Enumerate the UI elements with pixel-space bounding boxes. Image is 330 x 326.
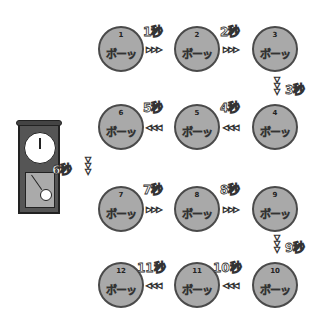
step-number: 10 — [254, 267, 296, 275]
pendulum-bob — [40, 189, 52, 201]
seconds-label: 10秒 — [213, 258, 242, 275]
sound-text: ボーッ — [100, 281, 142, 297]
sound-text: ボーッ — [254, 45, 296, 61]
sound-text: ボーッ — [100, 205, 142, 221]
step-circle-1: 1ボーッ — [98, 26, 144, 72]
step-number: 1 — [100, 31, 142, 39]
seconds-label: 3秒 — [285, 80, 305, 97]
sound-text: ボーッ — [100, 123, 142, 139]
clock-hand — [39, 138, 41, 149]
sound-text: ボーッ — [254, 123, 296, 139]
seconds-label: 11秒 — [137, 258, 166, 275]
step-number: 11 — [176, 267, 218, 275]
pendulum-rod — [31, 175, 42, 190]
direction-arrows-icon: ▷▷▷ — [223, 205, 238, 214]
seconds-label: 7秒 — [143, 180, 163, 197]
step-circle-3: 3ボーッ — [252, 26, 298, 72]
step-number: 8 — [176, 191, 218, 199]
sound-text: ボーッ — [254, 281, 296, 297]
down-arrows-icon: ▽▽▽ — [272, 77, 282, 95]
step-circle-10: 10ボーッ — [252, 262, 298, 308]
sound-text: ボーッ — [176, 45, 218, 61]
step-number: 12 — [100, 267, 142, 275]
step-circle-5: 5ボーッ — [174, 104, 220, 150]
seconds-label: 1秒 — [143, 22, 163, 39]
direction-arrows-icon: ◁◁◁ — [146, 281, 161, 290]
step-circle-9: 9ボーッ — [252, 186, 298, 232]
pendulum-window — [25, 172, 55, 208]
down-arrows-icon: ▽▽▽ — [272, 235, 282, 253]
sound-text: ボーッ — [100, 45, 142, 61]
step-number: 6 — [100, 109, 142, 117]
direction-arrows-icon: ◁◁◁ — [223, 281, 238, 290]
direction-arrows-icon: ▷▷▷ — [146, 205, 161, 214]
seconds-label: 8秒 — [220, 180, 240, 197]
step-number: 4 — [254, 109, 296, 117]
sound-text: ボーッ — [176, 205, 218, 221]
sound-text: ボーッ — [176, 281, 218, 297]
sound-text: ボーッ — [254, 205, 296, 221]
direction-arrows-icon: ◁◁◁ — [223, 123, 238, 132]
down-arrows-icon: ▽▽▽ — [83, 157, 93, 175]
step-number: 3 — [254, 31, 296, 39]
seconds-label: 4秒 — [220, 98, 240, 115]
direction-arrows-icon: ▷▷▷ — [223, 45, 238, 54]
seconds-label: 2秒 — [220, 22, 240, 39]
step-circle-2: 2ボーッ — [174, 26, 220, 72]
step-number: 5 — [176, 109, 218, 117]
seconds-label: 9秒 — [285, 238, 305, 255]
step-circle-7: 7ボーッ — [98, 186, 144, 232]
sound-text: ボーッ — [176, 123, 218, 139]
seconds-label: 5秒 — [143, 98, 163, 115]
step-circle-6: 6ボーッ — [98, 104, 144, 150]
direction-arrows-icon: ◁◁◁ — [146, 123, 161, 132]
step-circle-4: 4ボーッ — [252, 104, 298, 150]
step-number: 2 — [176, 31, 218, 39]
clock-top — [16, 120, 62, 126]
direction-arrows-icon: ▷▷▷ — [146, 45, 161, 54]
step-number: 7 — [100, 191, 142, 199]
step-number: 9 — [254, 191, 296, 199]
seconds-label: 6秒 — [52, 160, 72, 177]
step-circle-8: 8ボーッ — [174, 186, 220, 232]
